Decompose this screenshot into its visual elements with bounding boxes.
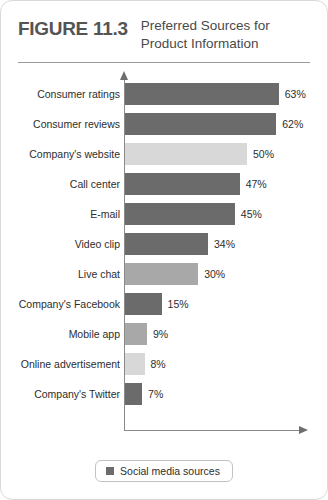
bar: [125, 293, 162, 315]
x-axis-arrow-icon: [299, 426, 308, 434]
bar-rows: Consumer ratings63%Consumer reviews62%Co…: [1, 79, 328, 409]
header-divider: [18, 62, 310, 63]
bar-value-label: 9%: [153, 328, 168, 340]
figure-title-line-1: Preferred Sources for: [141, 17, 270, 35]
legend-label: Social media sources: [120, 465, 220, 477]
bar-wrapper: 34%: [125, 233, 235, 255]
bar-wrapper: 30%: [125, 263, 225, 285]
bar: [125, 203, 235, 225]
bar: [125, 173, 240, 195]
bar-row: Company's Twitter7%: [1, 379, 328, 409]
chart-legend: Social media sources: [1, 460, 327, 482]
bar-value-label: 34%: [214, 238, 235, 250]
bar: [125, 263, 198, 285]
bar-row: Video clip34%: [1, 229, 328, 259]
bar-chart: Consumer ratings63%Consumer reviews62%Co…: [1, 71, 327, 439]
figure-title: Preferred Sources for Product Informatio…: [141, 17, 270, 53]
bar-category-label: Consumer reviews: [1, 118, 120, 130]
legend-swatch-icon: [106, 467, 114, 475]
bar: [125, 323, 147, 345]
bar-value-label: 30%: [204, 268, 225, 280]
bar-value-label: 50%: [253, 148, 274, 160]
bar-wrapper: 45%: [125, 203, 262, 225]
bar-category-label: Mobile app: [1, 328, 120, 340]
bar-category-label: E-mail: [1, 208, 120, 220]
bar-category-label: Video clip: [1, 238, 120, 250]
bar-wrapper: 8%: [125, 353, 166, 375]
bar-value-label: 15%: [168, 298, 189, 310]
bar-category-label: Live chat: [1, 268, 120, 280]
bar-value-label: 47%: [246, 178, 267, 190]
bar: [125, 113, 276, 135]
bar-row: E-mail45%: [1, 199, 328, 229]
bar-value-label: 7%: [148, 388, 163, 400]
bar: [125, 83, 279, 105]
bar-category-label: Company's website: [1, 148, 120, 160]
bar-row: Online advertisement8%: [1, 349, 328, 379]
x-axis-line: [124, 430, 300, 431]
bar-category-label: Call center: [1, 178, 120, 190]
bar-category-label: Consumer ratings: [1, 88, 120, 100]
bar-category-label: Company's Twitter: [1, 388, 120, 400]
bar-value-label: 45%: [241, 208, 262, 220]
bar-wrapper: 50%: [125, 143, 274, 165]
bar-wrapper: 47%: [125, 173, 267, 195]
bar-wrapper: 15%: [125, 293, 189, 315]
bar-row: Consumer reviews62%: [1, 109, 328, 139]
figure-header: FIGURE 11.3 Preferred Sources for Produc…: [1, 1, 327, 53]
bar-row: Live chat30%: [1, 259, 328, 289]
bar: [125, 143, 247, 165]
bar-wrapper: 9%: [125, 323, 168, 345]
bar-row: Call center47%: [1, 169, 328, 199]
figure-card: FIGURE 11.3 Preferred Sources for Produc…: [0, 0, 328, 500]
bar-category-label: Company's Facebook: [1, 298, 120, 310]
bar: [125, 383, 142, 405]
legend-box: Social media sources: [95, 460, 233, 482]
bar: [125, 233, 208, 255]
bar-row: Company's website50%: [1, 139, 328, 169]
bar-row: Consumer ratings63%: [1, 79, 328, 109]
bar-category-label: Online advertisement: [1, 358, 120, 370]
figure-title-line-2: Product Information: [141, 35, 270, 53]
bar-wrapper: 62%: [125, 113, 303, 135]
bar-wrapper: 63%: [125, 83, 306, 105]
bar-value-label: 62%: [282, 118, 303, 130]
bar: [125, 353, 145, 375]
bar-row: Mobile app9%: [1, 319, 328, 349]
bar-value-label: 8%: [151, 358, 166, 370]
bar-wrapper: 7%: [125, 383, 163, 405]
bar-value-label: 63%: [285, 88, 306, 100]
figure-number-label: FIGURE 11.3: [18, 17, 128, 40]
bar-row: Company's Facebook15%: [1, 289, 328, 319]
